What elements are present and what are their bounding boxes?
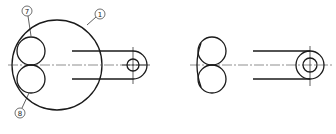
upper-circle-part-7: [17, 37, 45, 65]
leader-1: [87, 17, 96, 25]
lower-circle: [198, 65, 226, 93]
technical-drawing: 7 1 8: [0, 0, 336, 134]
left-view: 7 1 8: [8, 6, 150, 118]
label-8: 8: [18, 110, 22, 118]
label-1: 1: [98, 11, 102, 19]
lower-circle-part-8: [17, 65, 45, 93]
leader-7: [28, 16, 31, 36]
right-view: [190, 37, 334, 93]
upper-circle: [198, 37, 226, 65]
label-7: 7: [25, 8, 29, 16]
